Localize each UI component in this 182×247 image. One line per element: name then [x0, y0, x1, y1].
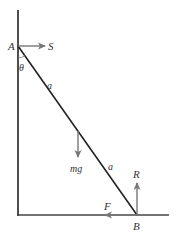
label-point-a: A	[7, 40, 15, 52]
label-segment-lower: a	[108, 161, 113, 172]
label-segment-upper: a	[47, 80, 52, 91]
ladder	[18, 46, 137, 215]
label-force-s: S	[48, 40, 54, 52]
label-force-mg: mg	[70, 163, 82, 174]
label-angle-theta: θ	[19, 62, 24, 73]
ladder-diagram: A S θ a mg a R F B	[0, 0, 182, 247]
label-point-b: B	[133, 220, 140, 232]
label-force-r: R	[132, 168, 140, 180]
label-force-f: F	[103, 200, 111, 212]
angle-arc	[18, 56, 25, 58]
